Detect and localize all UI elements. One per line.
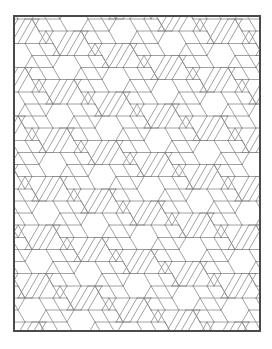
pattern-lines (15, 17, 261, 332)
pattern-frame (13, 15, 261, 332)
tessellation-pattern (15, 17, 261, 332)
